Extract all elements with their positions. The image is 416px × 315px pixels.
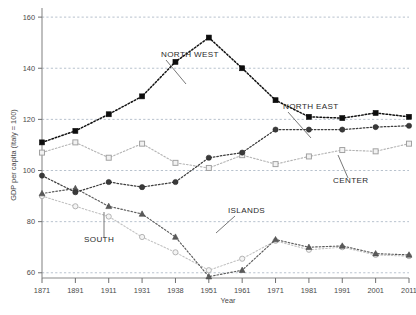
data-point [139,185,144,190]
x-tick-group: 1871189119111931193819511961197119811991… [34,278,416,295]
data-point [173,250,178,255]
y-tick-label: 60 [27,268,35,277]
data-point [273,127,278,132]
data-point [240,150,245,155]
x-tick-label: 1981 [301,286,317,295]
data-point [139,234,144,239]
data-point [306,127,311,132]
y-tick-label: 160 [23,13,35,22]
data-point [140,141,145,146]
x-tick-label: 2001 [367,286,383,295]
data-point [106,214,111,219]
series-label-islands: ISLANDS [228,206,265,215]
x-tick-label: 1991 [334,286,350,295]
data-point [39,173,44,178]
data-point [40,150,45,155]
data-point [173,234,179,239]
data-point [373,110,378,115]
data-point [340,148,345,153]
data-point [340,127,345,132]
data-point [139,211,145,216]
x-tick-label: 1891 [67,286,83,295]
data-point [206,155,211,160]
data-point [240,66,245,71]
data-point [106,155,111,160]
data-point [173,59,178,64]
x-tick-label: 1911 [101,286,117,295]
data-point [173,179,178,184]
data-point [73,190,78,195]
y-axis-title: GDP per capita (Italy = 100) [9,109,18,201]
data-point [407,141,412,146]
data-point [240,256,245,261]
annotation-layer: NORTH WESTNORTH EASTCENTERISLANDSSOUTH [84,50,368,244]
x-tick-label: 1931 [134,286,150,295]
data-point [206,35,211,40]
data-point [106,203,112,208]
y-tick-group: 6080100120140160 [23,13,42,278]
data-point [273,98,278,103]
data-point [206,165,211,170]
data-point [407,114,412,119]
y-tick-label: 80 [27,217,35,226]
x-tick-label: 1871 [34,286,50,295]
data-point [173,160,178,165]
data-point [306,114,311,119]
gdp-per-capita-line-chart: 6080100120140160 18711891191119311938195… [0,0,416,315]
x-axis-title: Year [221,296,236,305]
annotation-leader [216,216,235,233]
series-islands [39,193,411,272]
data-point [40,140,45,145]
data-point [306,154,311,159]
chart-canvas: 6080100120140160 18711891191119311938195… [0,0,416,315]
annotation-leader [338,155,348,178]
data-point [340,116,345,121]
x-tick-label: 1938 [167,286,183,295]
series-label-center: CENTER [333,176,368,185]
data-point [73,140,78,145]
x-tick-label: 2011 [401,286,416,295]
data-point [73,204,78,209]
data-point [140,94,145,99]
x-tick-label: 1951 [201,286,217,295]
series-label-north-east: NORTH EAST [283,102,339,111]
series-label-north-west: NORTH WEST [161,50,219,59]
data-point [206,268,211,273]
data-point [406,123,411,128]
data-point [273,162,278,167]
x-tick-label: 1971 [267,286,283,295]
data-point [106,179,111,184]
data-point [373,124,378,129]
y-tick-label: 100 [23,166,35,175]
y-tick-label: 140 [23,64,35,73]
x-tick-label: 1961 [234,286,250,295]
data-point [373,149,378,154]
series-label-south: SOUTH [84,235,114,244]
y-tick-label: 120 [23,115,35,124]
data-point [106,112,111,117]
data-point [73,128,78,133]
